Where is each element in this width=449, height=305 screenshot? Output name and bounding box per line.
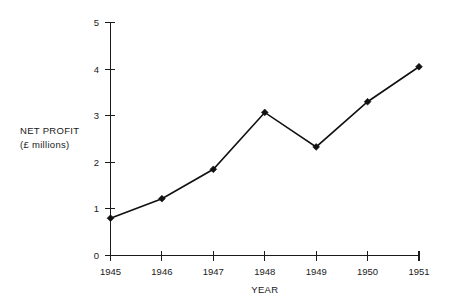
y-tick-label-0: 0	[94, 250, 99, 261]
series-net-profit	[107, 63, 422, 221]
x-tick-label-1948: 1948	[254, 266, 275, 277]
x-tick-label-1945: 1945	[100, 266, 121, 277]
y-tick-label-2: 2	[94, 157, 99, 168]
x-tick-label-1950: 1950	[357, 266, 378, 277]
x-tick-label-1949: 1949	[306, 266, 327, 277]
y-axis-tick-labels: 0 1 2 3 4 5	[94, 17, 99, 261]
y-tick-label-3: 3	[94, 110, 99, 121]
x-tick-label-1946: 1946	[151, 266, 172, 277]
x-tick-label-1951: 1951	[408, 266, 429, 277]
series-markers-net-profit	[107, 63, 422, 221]
data-point-1945	[107, 215, 114, 222]
series-line-net-profit	[111, 67, 420, 218]
chart-canvas: 0 1 2 3 4 5 1945 1946 1947 1948 1949 195…	[0, 0, 449, 305]
y-axis-title-line2: (£ millions)	[20, 139, 70, 150]
x-axis-title: YEAR	[251, 284, 278, 295]
line-chart: 0 1 2 3 4 5 1945 1946 1947 1948 1949 195…	[0, 0, 449, 305]
y-tick-label-5: 5	[94, 17, 99, 28]
x-tick-label-1947: 1947	[203, 266, 224, 277]
x-axis-tick-labels: 1945 1946 1947 1948 1949 1950 1951	[100, 266, 430, 277]
data-point-1946	[159, 195, 166, 202]
y-axis-title-line1: NET PROFIT	[20, 125, 79, 136]
y-tick-label-4: 4	[94, 64, 99, 75]
y-tick-label-1: 1	[94, 203, 99, 214]
